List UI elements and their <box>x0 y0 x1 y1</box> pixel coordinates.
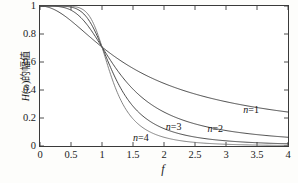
x-tick-label: 3 <box>223 150 228 161</box>
series-label-n1: n=1 <box>243 105 259 115</box>
x-axis-title: f <box>161 163 164 175</box>
x-tick-label: 0.5 <box>64 150 77 161</box>
x-tick-label: 1.5 <box>126 150 139 161</box>
series-label-n4: n=4 <box>133 133 149 143</box>
butterworth-response-figure: 00.511.522.533.54 00.20.40.60.81 n=1n=2n… <box>0 0 298 183</box>
series-label-n3: n=3 <box>166 122 182 132</box>
y-tick-label: 0 <box>12 141 36 152</box>
y-axis-title-h: H <box>20 94 31 101</box>
x-tick-label: 4 <box>285 150 290 161</box>
x-tick-label: 0 <box>37 150 42 161</box>
series-label-n2: n=2 <box>207 124 223 134</box>
plot-frame <box>40 6 289 147</box>
x-tick-label: 1 <box>99 150 104 161</box>
y-axis-title: H(ω)的幅值 <box>21 51 31 101</box>
y-axis-title-omega: (ω) <box>20 81 31 94</box>
x-tick-label: 2.5 <box>188 150 201 161</box>
y-tick-label: 0.2 <box>12 113 36 124</box>
y-tick-label: 0.8 <box>12 29 36 40</box>
x-tick-label: 2 <box>161 150 166 161</box>
x-tick-label: 3.5 <box>250 150 263 161</box>
y-axis-title-suffix: 的幅值 <box>20 51 31 81</box>
y-tick-label: 1 <box>12 1 36 12</box>
